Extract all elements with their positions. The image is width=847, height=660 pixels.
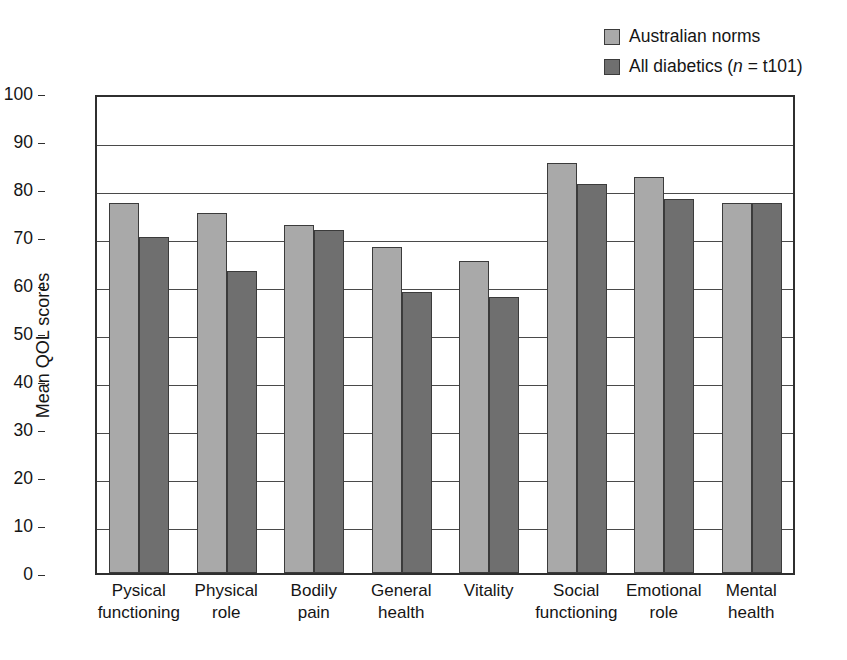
legend-label-australian-norms: Australian norms: [629, 28, 760, 46]
bar: [197, 213, 227, 573]
x-tick-label: Vitality: [445, 580, 533, 602]
bar-group: [710, 97, 798, 573]
y-tick-label: 100: [4, 86, 33, 104]
bar: [752, 203, 782, 573]
legend-label-all-diabetics: All diabetics (n = t101): [629, 58, 803, 76]
x-tick-label-line1: Bodily: [270, 580, 358, 602]
y-tick-label: 10: [14, 518, 33, 536]
y-tick-label: 20: [14, 470, 33, 488]
x-tick-label: Pysicalfunctioning: [95, 580, 183, 624]
bar-group: [185, 97, 273, 573]
bar: [109, 203, 139, 573]
bar: [664, 199, 694, 573]
x-tick-label-line1: General: [358, 580, 446, 602]
y-tick-label: 0: [23, 566, 33, 584]
legend-label-n-italic: n: [733, 56, 743, 76]
x-tick-label: Mentalhealth: [708, 580, 796, 624]
legend-label-suffix: = t101): [743, 56, 803, 76]
bar: [489, 297, 519, 573]
legend-label-prefix: All diabetics (: [629, 56, 733, 76]
y-tick-mark: [38, 95, 45, 96]
x-tick-label-line1: Social: [533, 580, 621, 602]
qol-bar-chart-figure: Australian norms All diabetics (n = t101…: [0, 0, 847, 660]
bar: [547, 163, 577, 573]
bar-group: [622, 97, 710, 573]
x-tick-label: Emotionalrole: [620, 580, 708, 624]
x-tick-label: Bodilypain: [270, 580, 358, 624]
bar: [227, 271, 257, 573]
bar: [577, 184, 607, 573]
bar: [722, 203, 752, 573]
y-tick-label: 60: [14, 278, 33, 296]
y-tick-label: 80: [14, 182, 33, 200]
x-axis: PysicalfunctioningPhysicalroleBodilypain…: [95, 580, 795, 650]
y-tick-mark: [38, 575, 45, 576]
y-tick-label: 40: [14, 374, 33, 392]
bar: [634, 177, 664, 573]
bar: [459, 261, 489, 573]
y-tick-label: 70: [14, 230, 33, 248]
x-tick-label-line1: Mental: [708, 580, 796, 602]
x-tick-label: Physicalrole: [183, 580, 271, 624]
x-tick-label-line2: pain: [270, 602, 358, 624]
x-tick-label: Socialfunctioning: [533, 580, 621, 624]
chart-legend: Australian norms All diabetics (n = t101…: [604, 26, 803, 78]
bar: [372, 247, 402, 573]
bar: [402, 292, 432, 573]
y-tick-label: 30: [14, 422, 33, 440]
bar-group: [97, 97, 185, 573]
x-tick-label-line2: functioning: [95, 602, 183, 624]
bar: [139, 237, 169, 573]
bar-group: [447, 97, 535, 573]
x-tick-label-line1: Vitality: [445, 580, 533, 602]
x-tick-label-line2: health: [708, 602, 796, 624]
x-tick-label: Generalhealth: [358, 580, 446, 624]
x-tick-label-line1: Emotional: [620, 580, 708, 602]
x-tick-label-line1: Physical: [183, 580, 271, 602]
plot-area: [95, 95, 795, 575]
x-tick-label-line2: role: [183, 602, 271, 624]
bar-group: [272, 97, 360, 573]
y-tick-label: 50: [14, 326, 33, 344]
legend-item-australian-norms: Australian norms: [604, 26, 803, 48]
legend-swatch-australian-norms: [604, 29, 620, 45]
x-tick-label-line2: role: [620, 602, 708, 624]
y-tick-label: 90: [14, 134, 33, 152]
bar: [314, 230, 344, 573]
y-axis-title: Mean QOL scores: [33, 136, 54, 556]
x-tick-label-line1: Pysical: [95, 580, 183, 602]
legend-item-all-diabetics: All diabetics (n = t101): [604, 56, 803, 78]
bar-group: [360, 97, 448, 573]
bar-group: [535, 97, 623, 573]
x-tick-label-line2: functioning: [533, 602, 621, 624]
legend-swatch-all-diabetics: [604, 59, 620, 75]
bar: [284, 225, 314, 573]
x-tick-label-line2: health: [358, 602, 446, 624]
